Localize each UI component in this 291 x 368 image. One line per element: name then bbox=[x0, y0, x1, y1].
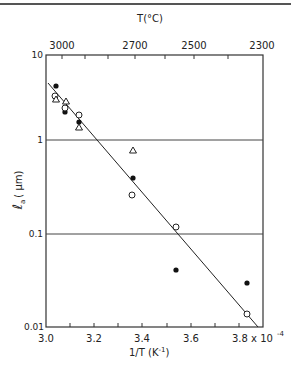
top-tick-2300: 2300 bbox=[249, 40, 274, 51]
x-axis-title: 1/T (K-1) bbox=[129, 346, 169, 358]
x-tick-3.6: 3.6 bbox=[183, 333, 199, 344]
data-point-triangle bbox=[130, 147, 137, 153]
data-point-filled bbox=[173, 267, 178, 272]
y-tick-0.01: 0.01 bbox=[24, 322, 44, 332]
top-tick-2700: 2700 bbox=[122, 40, 147, 51]
x-multiplier-exponent: -4 bbox=[277, 330, 285, 338]
top-tick-3000: 3000 bbox=[49, 40, 74, 51]
data-point-open bbox=[62, 105, 68, 111]
data-point-triangle bbox=[76, 124, 83, 130]
y-axis-title: ℓa( μm) bbox=[10, 171, 27, 211]
y-tick-1: 1 bbox=[37, 135, 43, 145]
plot-frame bbox=[46, 55, 263, 327]
data-point-filled bbox=[244, 280, 249, 285]
top-axis-title: T(°C) bbox=[136, 13, 163, 24]
data-point-open bbox=[76, 112, 82, 118]
x-tick-3.2: 3.2 bbox=[86, 333, 102, 344]
series-filled-circles bbox=[53, 83, 249, 285]
y-tick-0.1: 0.1 bbox=[29, 229, 43, 239]
svg-text:ℓa( μm): ℓa( μm) bbox=[10, 171, 27, 211]
arrhenius-chart: T(°C) 3000 2700 2500 2300 10 1 0.1 0.01 … bbox=[0, 0, 291, 368]
svg-text:1/T (K-1): 1/T (K-1) bbox=[129, 346, 169, 358]
data-point-filled bbox=[53, 83, 58, 88]
x-tick-3.0: 3.0 bbox=[38, 333, 54, 344]
data-point-open bbox=[173, 224, 179, 230]
x-tick-3.8: 3.8 x 10 bbox=[232, 333, 273, 344]
data-point-open bbox=[129, 192, 135, 198]
y-tick-10: 10 bbox=[32, 50, 44, 60]
x-tick-3.4: 3.4 bbox=[134, 333, 150, 344]
data-point-filled bbox=[130, 175, 135, 180]
data-point-open bbox=[244, 311, 250, 317]
top-tick-2500: 2500 bbox=[181, 40, 206, 51]
